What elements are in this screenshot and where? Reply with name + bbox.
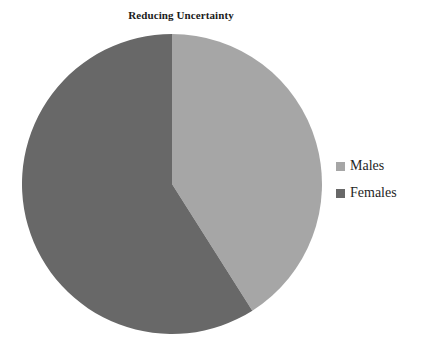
pie-plot-area — [22, 34, 322, 334]
pie-svg — [22, 34, 322, 334]
legend-label-males: Males — [350, 158, 384, 174]
legend-swatch-females-icon — [336, 189, 345, 198]
legend-swatch-males-icon — [336, 162, 345, 171]
chart-legend: Males Females — [336, 156, 431, 210]
legend-label-females: Females — [350, 185, 397, 201]
pie-chart-figure: Reducing Uncertainty Males Females — [0, 0, 433, 357]
legend-entry-females[interactable]: Females — [336, 183, 431, 203]
legend-entry-males[interactable]: Males — [336, 156, 431, 176]
chart-title: Reducing Uncertainty — [0, 9, 362, 22]
